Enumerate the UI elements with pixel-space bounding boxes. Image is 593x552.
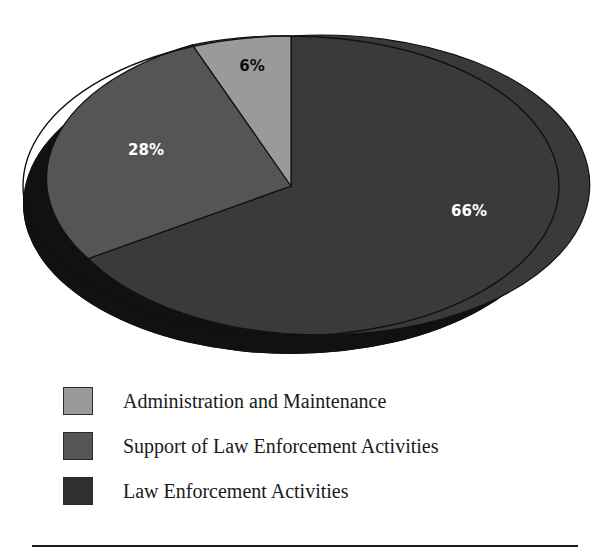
chart-legend: Administration and Maintenance Support o… bbox=[63, 378, 533, 513]
pie-svg: 66% 28% 6% bbox=[0, 0, 593, 370]
legend-item-support-of-law-enforcement-activities: Support of Law Enforcement Activities bbox=[63, 423, 533, 468]
pie-chart-figure: 66% 28% 6% Administration and Maintenanc… bbox=[0, 0, 593, 552]
footer-divider bbox=[32, 545, 578, 547]
pie-label-administration-and-maintenance: 6% bbox=[239, 57, 264, 75]
legend-label-law-enforcement-activities: Law Enforcement Activities bbox=[123, 481, 348, 501]
legend-swatch-icon-administration-and-maintenance bbox=[63, 387, 93, 415]
pie-chart-graphic: 66% 28% 6% bbox=[0, 0, 593, 370]
legend-swatch-icon-support-of-law-enforcement-activities bbox=[63, 432, 93, 460]
pie-label-law-enforcement-activities: 66% bbox=[451, 202, 487, 220]
legend-item-administration-and-maintenance: Administration and Maintenance bbox=[63, 378, 533, 423]
legend-label-support-of-law-enforcement-activities: Support of Law Enforcement Activities bbox=[123, 436, 438, 456]
legend-label-administration-and-maintenance: Administration and Maintenance bbox=[123, 391, 386, 411]
legend-swatch-icon-law-enforcement-activities bbox=[63, 477, 93, 505]
legend-item-law-enforcement-activities: Law Enforcement Activities bbox=[63, 468, 533, 513]
pie-label-support-of-law-enforcement-activities: 28% bbox=[128, 141, 164, 159]
